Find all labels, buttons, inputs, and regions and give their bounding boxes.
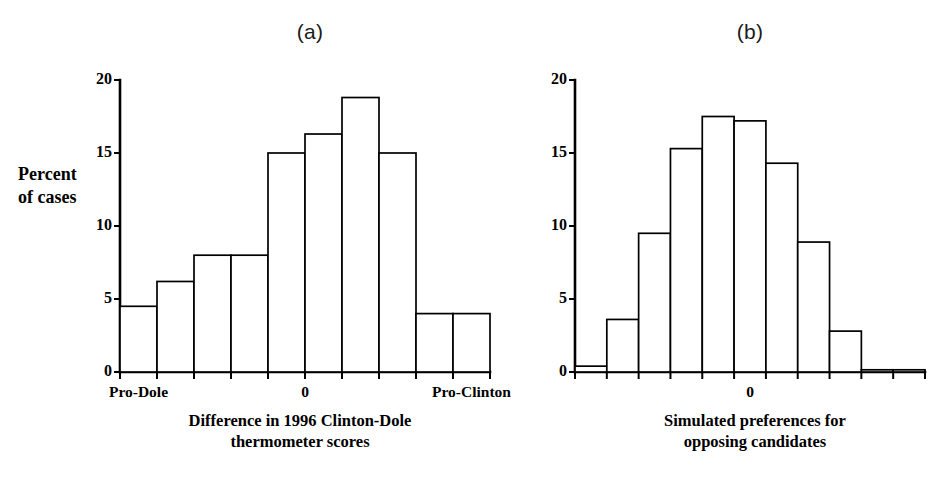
y-tick-label: 20 [529, 70, 567, 88]
histogram-bar [268, 153, 305, 372]
panel-a-title: (a) [230, 20, 390, 44]
histogram-bar [830, 331, 862, 372]
y-tick-label: 20 [74, 70, 112, 88]
histogram-bar [342, 98, 379, 372]
histogram-bar [453, 314, 490, 372]
y-tick-label: 0 [74, 362, 112, 380]
histogram-bar [734, 121, 766, 372]
panel-b-caption-line2: opposing candidates [575, 431, 935, 452]
histogram-bar [670, 149, 702, 372]
histogram-bar [702, 117, 734, 373]
histogram-bar [416, 314, 453, 372]
panel-b-title: (b) [670, 20, 830, 44]
histogram-bar [575, 366, 607, 372]
x-tick-label: Pro-Dole [79, 383, 199, 401]
histogram-bar [120, 306, 157, 372]
y-tick-label: 5 [74, 289, 112, 307]
histogram-bar [305, 134, 342, 372]
y-tick-label: 10 [74, 216, 112, 234]
x-tick-label: 0 [690, 383, 810, 401]
histogram-bar [861, 370, 893, 372]
y-tick-label: 15 [529, 143, 567, 161]
panel-b-caption-line1: Simulated preferences for [575, 410, 935, 431]
panel-a-plot [90, 60, 510, 390]
histogram-bar [766, 163, 798, 372]
histogram-bar [893, 370, 925, 372]
x-tick-label: Pro-Clinton [412, 383, 532, 401]
histogram-bar [607, 319, 639, 372]
panel-a-caption-line1: Difference in 1996 Clinton-Dole [120, 410, 480, 431]
histogram-bar [194, 255, 231, 372]
x-tick-label: 0 [245, 383, 365, 401]
histogram-bar [798, 242, 830, 372]
y-tick-label: 0 [529, 362, 567, 380]
panel-a-caption: Difference in 1996 Clinton-Dole thermome… [120, 410, 480, 453]
panel-b-caption: Simulated preferences for opposing candi… [575, 410, 935, 453]
y-tick-label: 15 [74, 143, 112, 161]
histogram-bar [157, 281, 194, 372]
panel-a-caption-line2: thermometer scores [120, 431, 480, 452]
y-tick-label: 5 [529, 289, 567, 307]
figure-container: (a) (b) Percent of cases Difference in 1… [0, 0, 949, 479]
histogram-bar [379, 153, 416, 372]
panel-b-plot [545, 60, 945, 390]
histogram-bar [231, 255, 268, 372]
histogram-bar [639, 233, 671, 372]
y-tick-label: 10 [529, 216, 567, 234]
